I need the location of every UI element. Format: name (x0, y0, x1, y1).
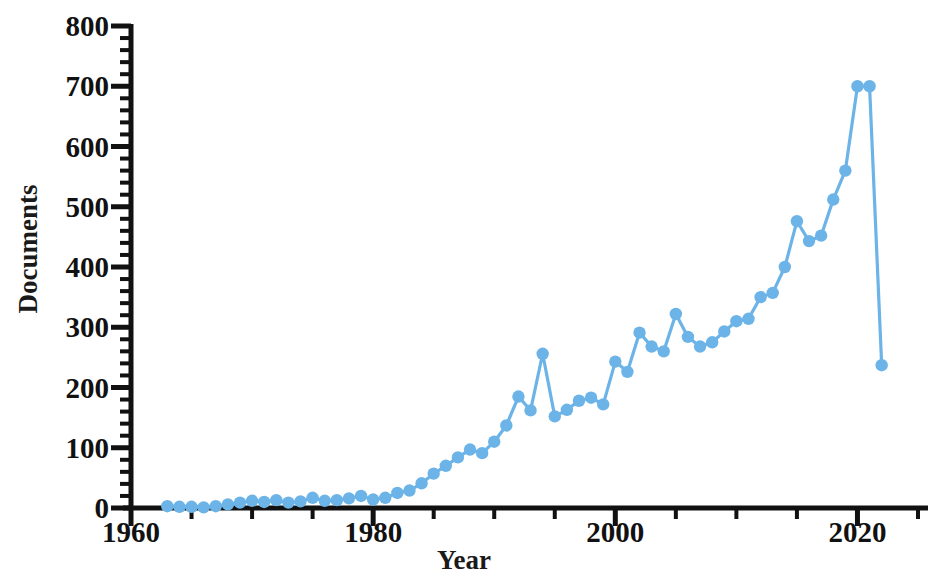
data-point (500, 419, 512, 431)
data-point (609, 355, 621, 367)
data-point (573, 395, 585, 407)
data-series-markers (161, 80, 888, 514)
data-point (682, 331, 694, 343)
data-point (161, 500, 173, 512)
data-point (294, 495, 306, 507)
data-point (258, 496, 270, 508)
data-point (282, 496, 294, 508)
data-point (658, 345, 670, 357)
data-point (633, 326, 645, 338)
plot-area (0, 0, 928, 578)
data-point (779, 261, 791, 273)
data-point (270, 494, 282, 506)
data-point (597, 398, 609, 410)
data-point (234, 496, 246, 508)
data-point (185, 501, 197, 513)
data-point (875, 359, 887, 371)
data-point (718, 325, 730, 337)
data-point (791, 215, 803, 227)
data-point (415, 477, 427, 489)
data-point (440, 460, 452, 472)
data-point (767, 287, 779, 299)
data-point (343, 492, 355, 504)
data-point (670, 308, 682, 320)
data-point (173, 501, 185, 513)
data-point (488, 436, 500, 448)
data-point (863, 80, 875, 92)
data-point (585, 392, 597, 404)
data-point (694, 340, 706, 352)
data-point (246, 495, 258, 507)
data-point (476, 447, 488, 459)
data-point (536, 348, 548, 360)
data-point (391, 487, 403, 499)
data-point (754, 291, 766, 303)
data-point (549, 410, 561, 422)
data-point (839, 164, 851, 176)
data-point (452, 451, 464, 463)
data-point (319, 495, 331, 507)
x-axis-ticks (131, 508, 918, 526)
data-point (222, 498, 234, 510)
data-point (851, 80, 863, 92)
data-point (730, 315, 742, 327)
data-point (427, 467, 439, 479)
data-point (464, 443, 476, 455)
data-point (561, 404, 573, 416)
axes-lines (123, 24, 928, 508)
data-point (355, 490, 367, 502)
data-point (331, 494, 343, 506)
data-point (210, 500, 222, 512)
data-point (379, 492, 391, 504)
data-point (512, 390, 524, 402)
data-point (706, 336, 718, 348)
data-point (803, 235, 815, 247)
data-point (815, 229, 827, 241)
data-point (306, 492, 318, 504)
data-point (197, 501, 209, 513)
data-point (621, 366, 633, 378)
data-point (367, 493, 379, 505)
data-point (645, 340, 657, 352)
chart-figure: Documents Year 8007006005004003002001000… (0, 0, 928, 578)
data-point (827, 193, 839, 205)
data-point (524, 404, 536, 416)
data-point (742, 313, 754, 325)
data-point (403, 484, 415, 496)
y-axis-ticks (111, 26, 131, 508)
